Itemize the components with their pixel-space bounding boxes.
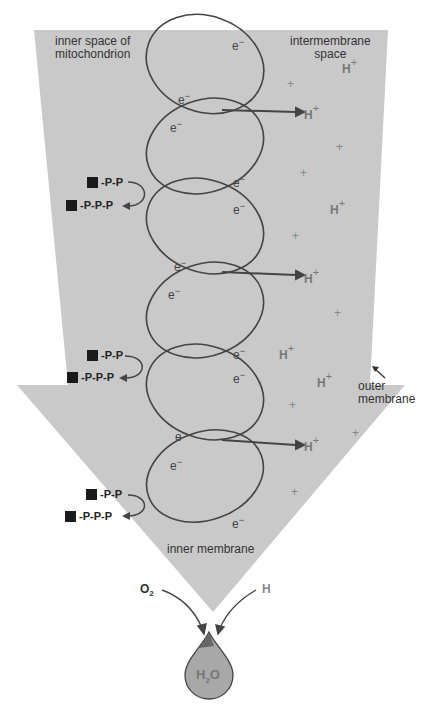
water-label: H2O (196, 668, 220, 687)
plus-sign: + (352, 426, 359, 440)
label-intermembrane-space: intermembrane space (290, 35, 371, 61)
proton: H+ (342, 58, 357, 76)
plus-sign: + (336, 140, 343, 154)
atp-label: -P-P-P (67, 371, 114, 383)
membrane-arrow-shape (17, 30, 405, 612)
proton: H+ (304, 436, 319, 454)
electron: e− (178, 91, 190, 107)
plus-sign: + (291, 485, 298, 499)
plus-sign: + (292, 229, 299, 243)
proton: H+ (304, 268, 319, 286)
adenosine-icon (87, 350, 98, 361)
electron: e− (233, 174, 245, 190)
adenosine-icon (86, 489, 97, 500)
electron: e− (174, 258, 186, 274)
adenosine-icon (67, 372, 78, 383)
electron-transport-diagram (0, 0, 441, 704)
plus-sign: + (334, 306, 341, 320)
electron: e− (170, 119, 182, 135)
plus-sign: + (289, 398, 296, 412)
label-inner-membrane: inner membrane (167, 543, 254, 556)
electron: e− (175, 428, 187, 444)
electron: e− (233, 370, 245, 386)
atp-label: -P-P-P (65, 510, 112, 522)
adenosine-icon (66, 200, 77, 211)
oxygen-label: O2 (140, 583, 154, 600)
hydrogen-label: H (262, 583, 271, 596)
electron: e− (232, 515, 244, 531)
atp-label: -P-P-P (66, 199, 113, 211)
electron: e− (233, 201, 245, 217)
proton: H+ (317, 372, 332, 390)
adp-label: -P-P (87, 349, 123, 361)
electron: e− (168, 286, 180, 302)
proton: H+ (330, 199, 345, 217)
label-inner-space: inner space of mitochondrion (55, 35, 130, 61)
proton: H+ (304, 104, 319, 122)
electron: e− (232, 37, 244, 53)
electron: e− (170, 457, 182, 473)
plus-sign: + (287, 77, 294, 91)
proton: H+ (279, 344, 294, 362)
adenosine-icon (87, 177, 98, 188)
plus-sign: + (300, 166, 307, 180)
adp-label: -P-P (87, 176, 123, 188)
adenosine-icon (65, 511, 76, 522)
label-outer-membrane: outer membrane (358, 380, 415, 406)
electron: e− (233, 346, 245, 362)
adp-label: -P-P (86, 488, 122, 500)
